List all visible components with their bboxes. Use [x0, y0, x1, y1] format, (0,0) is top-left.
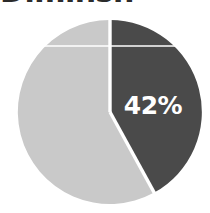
pie-slice-label-42: 42% — [120, 92, 186, 120]
screenshot-root: Diminsh 42% — [0, 0, 210, 213]
pie-chart: 42% — [0, 0, 210, 213]
